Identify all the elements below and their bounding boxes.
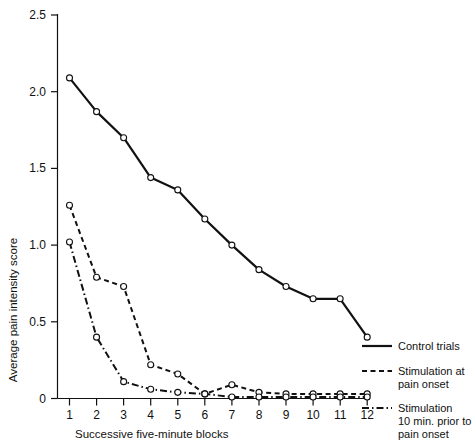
legend-entry-stimulation-10min-prior[interactable]: Stimulation 10 min. prior to pain onset bbox=[362, 402, 471, 440]
data-point bbox=[256, 394, 262, 400]
x-tick-label-4: 4 bbox=[147, 408, 154, 422]
data-point bbox=[283, 394, 289, 400]
y-tick-label-1.5: 1.5 bbox=[29, 161, 46, 175]
data-point bbox=[148, 362, 154, 368]
y-tick-label-2.5: 2.5 bbox=[29, 8, 46, 22]
series-control-trials bbox=[67, 75, 371, 340]
series-stimulation-10-min-prior-to-pain-onset bbox=[67, 239, 371, 400]
legend-label-stimulation-prior-line2: 10 min. prior to bbox=[398, 415, 471, 427]
data-point bbox=[148, 386, 154, 392]
x-tick-label-5: 5 bbox=[174, 408, 181, 422]
y-axis-ticks bbox=[51, 15, 58, 399]
legend-entry-control-trials[interactable]: Control trials bbox=[362, 340, 460, 352]
x-axis-title: Successive five-minute blocks bbox=[75, 428, 229, 440]
data-point bbox=[67, 75, 73, 81]
data-point bbox=[67, 239, 73, 245]
data-point bbox=[148, 175, 154, 181]
data-point bbox=[256, 267, 262, 273]
data-point bbox=[121, 284, 127, 290]
data-point bbox=[121, 379, 127, 385]
data-point bbox=[94, 334, 100, 340]
data-point bbox=[94, 274, 100, 280]
data-point bbox=[337, 296, 343, 302]
x-tick-label-3: 3 bbox=[120, 408, 127, 422]
data-series-layer bbox=[67, 75, 371, 400]
y-tick-label-0: 0 bbox=[39, 392, 46, 406]
y-tick-label-1.0: 1.0 bbox=[29, 238, 46, 252]
x-tick-label-7: 7 bbox=[229, 408, 236, 422]
y-tick-label-0.5: 0.5 bbox=[29, 315, 46, 329]
legend-entry-stimulation-at-pain-onset[interactable]: Stimulation at pain onset bbox=[362, 365, 465, 390]
x-axis-ticks bbox=[70, 399, 368, 406]
data-point bbox=[310, 394, 316, 400]
x-tick-label-8: 8 bbox=[256, 408, 263, 422]
data-point bbox=[175, 187, 181, 193]
data-point bbox=[121, 135, 127, 141]
data-point bbox=[202, 391, 208, 397]
y-axis-title: Average pain intensity score bbox=[7, 238, 19, 382]
data-point bbox=[229, 242, 235, 248]
legend-label-stimulation-prior-line1: Stimulation bbox=[398, 402, 452, 414]
data-point bbox=[364, 334, 370, 340]
data-point bbox=[337, 394, 343, 400]
data-point bbox=[67, 202, 73, 208]
x-tick-label-2: 2 bbox=[93, 408, 100, 422]
legend-label-control-trials: Control trials bbox=[398, 340, 460, 352]
x-tick-label-10: 10 bbox=[306, 408, 320, 422]
x-tick-label-1: 1 bbox=[66, 408, 73, 422]
y-tick-label-2.0: 2.0 bbox=[29, 85, 46, 99]
x-tick-label-6: 6 bbox=[201, 408, 208, 422]
data-point bbox=[364, 394, 370, 400]
data-point bbox=[202, 216, 208, 222]
pain-intensity-line-chart: 0 0.5 1.0 1.5 2.0 2.5 1 2 3 4 5 6 7 8 bbox=[0, 0, 475, 447]
data-point bbox=[175, 371, 181, 377]
x-tick-label-12: 12 bbox=[361, 408, 375, 422]
legend-label-stimulation-at-line2: pain onset bbox=[398, 378, 449, 390]
x-tick-label-9: 9 bbox=[283, 408, 290, 422]
data-point bbox=[229, 382, 235, 388]
data-point bbox=[94, 109, 100, 115]
data-point bbox=[175, 389, 181, 395]
x-tick-label-11: 11 bbox=[334, 408, 347, 422]
data-point bbox=[310, 296, 316, 302]
data-point bbox=[283, 284, 289, 290]
series-line-3 bbox=[70, 242, 368, 397]
data-point bbox=[229, 394, 235, 400]
legend-label-stimulation-prior-line3: pain onset bbox=[398, 428, 449, 440]
series-line-1 bbox=[70, 78, 368, 337]
figure-container: 0 0.5 1.0 1.5 2.0 2.5 1 2 3 4 5 6 7 8 bbox=[0, 0, 475, 447]
legend-label-stimulation-at-line1: Stimulation at bbox=[398, 365, 465, 377]
legend: Control trials Stimulation at pain onset… bbox=[362, 340, 471, 440]
